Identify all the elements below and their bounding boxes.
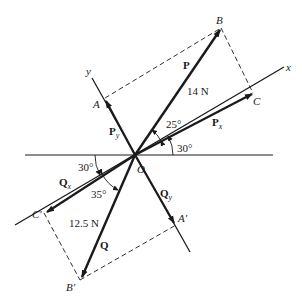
force-diagram: B A C x y O C′ B′ A′ P 14 N Px Py Q 12.5… [0,0,302,306]
label-Py: Py [109,125,120,140]
label-Q-magnitude: 12.5 N [69,217,99,229]
x-axis [15,67,284,225]
label-angle-25: 25° [166,118,181,130]
label-B: B [216,14,223,26]
label-P-magnitude: 14 N [187,85,209,97]
label-C: C [253,95,261,107]
label-A-prime: A′ [177,212,188,224]
angle-arc-25 [152,130,161,141]
label-Qx: Qx [59,176,72,191]
label-angle-30-left: 30° [78,161,93,173]
label-Px: Px [212,116,223,131]
label-origin: O [137,163,145,175]
label-angle-35: 35° [91,188,106,200]
angle-arc-30-right [168,136,173,155]
dashed-Bp-Ap [80,225,176,280]
label-C-prime: C′ [32,208,42,220]
angle-arc-30-left [95,155,100,175]
label-angle-30-right: 30° [177,142,192,154]
label-A: A [92,98,100,110]
label-x-axis: x [285,61,291,73]
dashed-B-C [221,28,253,93]
vector-Px [135,94,252,155]
label-B-prime: B′ [66,281,76,293]
label-P: P [183,59,190,71]
label-y-axis: y [85,65,91,77]
label-Q: Q [100,239,109,251]
